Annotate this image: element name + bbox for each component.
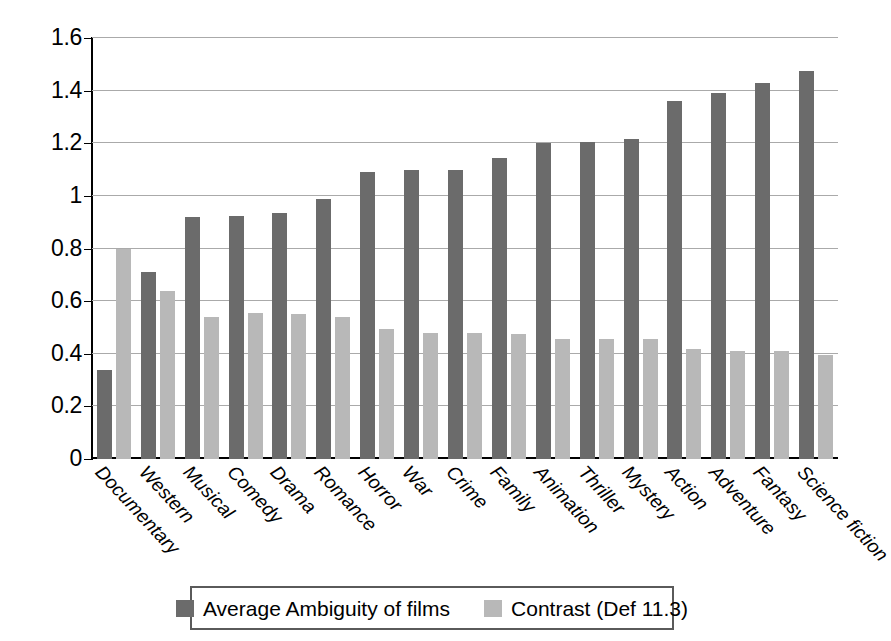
y-axis-tick-mark xyxy=(84,143,92,144)
bar xyxy=(141,272,156,459)
y-axis-tick-mark xyxy=(84,354,92,355)
legend-entry-contrast: Contrast (Def 11.3) xyxy=(484,598,688,619)
bar-group xyxy=(185,38,219,459)
bar xyxy=(711,93,726,459)
bar-group xyxy=(799,38,833,459)
bar xyxy=(248,313,263,459)
bar xyxy=(818,355,833,459)
bar xyxy=(116,249,131,460)
y-axis-tick-label: 1.6 xyxy=(8,26,82,49)
legend-label: Average Ambiguity of films xyxy=(203,598,450,619)
bar xyxy=(799,71,814,459)
bar-group xyxy=(360,38,394,459)
y-axis-tick-mark xyxy=(84,91,92,92)
legend-swatch-icon xyxy=(176,600,194,617)
y-axis-tick-mark xyxy=(84,38,92,39)
bar xyxy=(774,351,789,459)
bar xyxy=(467,333,482,459)
bar xyxy=(97,370,112,459)
bar xyxy=(291,314,306,459)
bar xyxy=(730,351,745,459)
x-axis-tick-label: Crime xyxy=(442,462,491,513)
y-axis-tick-mark xyxy=(84,196,92,197)
bar xyxy=(404,170,419,459)
bar xyxy=(643,339,658,459)
bar-group xyxy=(580,38,614,459)
y-axis-tick-label: 1.2 xyxy=(8,131,82,154)
bar xyxy=(536,143,551,459)
y-axis-tick-label: 0.8 xyxy=(8,237,82,260)
bar xyxy=(204,317,219,459)
bar-group xyxy=(141,38,175,459)
bar xyxy=(624,139,639,459)
bar-group xyxy=(404,38,438,459)
bar xyxy=(555,339,570,459)
bar xyxy=(379,329,394,459)
y-axis-labels: 00.20.40.60.811.21.41.6 xyxy=(0,0,82,641)
bar xyxy=(492,158,507,459)
bar-group xyxy=(448,38,482,459)
x-axis-tick-label: War xyxy=(398,462,436,501)
y-axis-tick-mark xyxy=(84,459,92,460)
plot-area xyxy=(92,38,838,459)
y-axis-tick-mark xyxy=(84,406,92,407)
y-axis-tick-mark xyxy=(84,301,92,302)
bar-group xyxy=(316,38,350,459)
bar-group xyxy=(492,38,526,459)
legend-swatch-icon xyxy=(484,600,502,617)
y-axis-tick-label: 0.6 xyxy=(8,289,82,312)
bar-group xyxy=(536,38,570,459)
legend-label: Contrast (Def 11.3) xyxy=(511,598,688,619)
bar xyxy=(448,170,463,459)
bar-group xyxy=(229,38,263,459)
bar xyxy=(667,101,682,459)
y-axis-tick-label: 0.2 xyxy=(8,394,82,417)
bar-group xyxy=(667,38,701,459)
bar xyxy=(316,199,331,459)
y-axis-tick-label: 0.4 xyxy=(8,342,82,365)
bar xyxy=(423,333,438,459)
bar xyxy=(686,349,701,460)
bar xyxy=(360,172,375,459)
legend: Average Ambiguity of films Contrast (Def… xyxy=(190,586,674,630)
x-axis-labels: DocumentaryWesternMusicalComedyDramaRoma… xyxy=(92,462,838,582)
legend-entry-average-ambiguity: Average Ambiguity of films xyxy=(176,598,450,619)
bar-group xyxy=(755,38,789,459)
bar xyxy=(272,213,287,459)
y-axis-tick-label: 1 xyxy=(8,184,82,207)
bar xyxy=(335,317,350,459)
bar xyxy=(229,216,244,459)
y-axis-tick-label: 0 xyxy=(8,447,82,470)
bar xyxy=(185,217,200,459)
bar-group xyxy=(272,38,306,459)
bar xyxy=(580,142,595,459)
bar xyxy=(160,291,175,459)
bar xyxy=(599,339,614,459)
y-axis-tick-label: 1.4 xyxy=(8,79,82,102)
bar xyxy=(511,334,526,459)
bar-group xyxy=(624,38,658,459)
bars-layer xyxy=(92,38,838,459)
bar xyxy=(755,83,770,459)
x-axis-tick-label: Family xyxy=(486,462,539,517)
bar-group xyxy=(97,38,131,459)
bar-group xyxy=(711,38,745,459)
y-axis-tick-mark xyxy=(84,249,92,250)
